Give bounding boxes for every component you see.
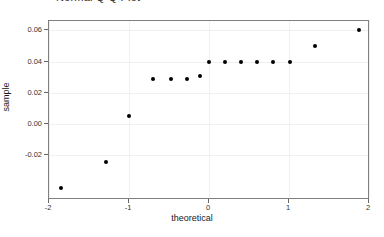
y-tick-label: -0.02 xyxy=(25,150,42,159)
y-tick-mark xyxy=(44,92,48,93)
data-point xyxy=(185,77,189,81)
gridline-vertical xyxy=(289,21,290,198)
x-axis-label: theoretical xyxy=(0,213,384,223)
data-point xyxy=(207,60,211,64)
gridline-horizontal xyxy=(49,93,368,94)
x-tick-label: 1 xyxy=(286,203,290,212)
gridline-horizontal xyxy=(49,124,368,125)
data-point xyxy=(239,60,243,64)
data-point xyxy=(357,28,361,32)
qq-plot-figure: Normal Q-Q Plot theoretical sample -2-10… xyxy=(0,0,384,237)
gridline-vertical xyxy=(49,21,50,198)
x-tick-label: 2 xyxy=(366,203,370,212)
gridline-vertical xyxy=(129,21,130,198)
y-tick-label: 0.06 xyxy=(27,25,42,34)
data-point xyxy=(255,60,259,64)
data-point xyxy=(151,77,155,81)
y-tick-mark xyxy=(44,123,48,124)
plot-area xyxy=(48,20,369,199)
x-tick-label: 0 xyxy=(206,203,210,212)
gridline-horizontal xyxy=(49,155,368,156)
data-point xyxy=(169,77,173,81)
data-point xyxy=(288,60,292,64)
data-point xyxy=(104,160,108,164)
y-axis-label: sample xyxy=(1,82,11,111)
x-tick-label: -2 xyxy=(45,203,52,212)
y-tick-mark xyxy=(44,61,48,62)
y-tick-label: 0.00 xyxy=(27,119,42,128)
gridline-vertical xyxy=(209,21,210,198)
y-tick-label: 0.02 xyxy=(27,87,42,96)
y-tick-mark xyxy=(44,154,48,155)
gridline-vertical xyxy=(369,21,370,198)
data-point xyxy=(59,186,63,190)
y-tick-label: 0.04 xyxy=(27,56,42,65)
y-tick-mark xyxy=(44,29,48,30)
gridline-horizontal xyxy=(49,30,368,31)
x-tick-label: -1 xyxy=(125,203,132,212)
chart-title-clipped: Normal Q-Q Plot xyxy=(56,0,140,3)
data-point xyxy=(271,60,275,64)
data-point xyxy=(198,74,202,78)
data-point xyxy=(127,114,131,118)
data-point xyxy=(223,60,227,64)
data-point xyxy=(313,44,317,48)
